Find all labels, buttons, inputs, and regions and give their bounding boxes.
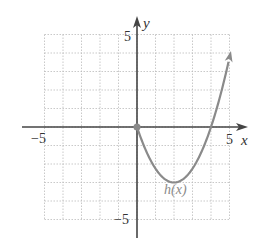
y-min-tick-label: −5	[114, 213, 129, 227]
y-max-tick-label: 5	[124, 30, 131, 44]
curve-label: h(x)	[164, 183, 187, 197]
y-axis-label: y	[143, 16, 150, 31]
x-max-tick-label: 5	[226, 133, 233, 147]
x-min-tick-label: −5	[31, 132, 46, 146]
start-point	[134, 124, 141, 131]
x-axis-label: x	[241, 133, 248, 148]
